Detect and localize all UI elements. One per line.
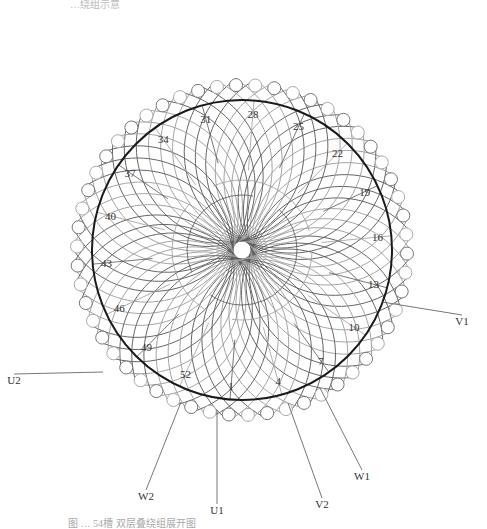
slot-40 xyxy=(76,202,89,215)
coil-arc xyxy=(195,79,387,253)
slot-17 xyxy=(397,209,410,222)
slot-10 xyxy=(371,337,384,350)
slot-32 xyxy=(174,91,187,104)
coil-arc xyxy=(238,104,413,296)
slot-44 xyxy=(74,278,87,291)
slot-27 xyxy=(268,82,281,95)
coil-arc xyxy=(97,247,289,421)
terminal-lead-w1 xyxy=(320,388,362,470)
terminal-w1: W1 xyxy=(354,470,370,482)
slot-20 xyxy=(375,156,388,169)
slot-35 xyxy=(125,121,138,134)
coil-arc xyxy=(112,82,304,246)
slot-9 xyxy=(360,352,373,365)
slot-number-46: 46 xyxy=(114,302,126,314)
slot-number-34: 34 xyxy=(158,133,170,145)
terminal-leads: U1V2W2W1V1U2 xyxy=(7,302,468,516)
slot-14 xyxy=(399,266,412,279)
slot-number-13: 13 xyxy=(368,278,380,290)
slot-number-37: 37 xyxy=(125,167,137,179)
winding-diagram: 147101316192225283134374043464952 U1V2W2… xyxy=(0,0,487,529)
slot-number-49: 49 xyxy=(141,341,153,353)
slot-number-43: 43 xyxy=(101,257,113,269)
slot-3 xyxy=(261,407,274,420)
terminal-lead-v2 xyxy=(288,403,322,498)
slot-number-22: 22 xyxy=(332,147,343,159)
slot-number-1: 1 xyxy=(228,380,234,392)
slot-19 xyxy=(385,173,398,186)
slot-number-28: 28 xyxy=(247,108,259,120)
slot-circles xyxy=(71,79,414,422)
slot-number-10: 10 xyxy=(349,321,361,333)
slot-50 xyxy=(134,374,147,387)
slot-31 xyxy=(192,84,205,97)
slot-39 xyxy=(82,184,95,197)
terminal-v2: V2 xyxy=(315,498,328,510)
slot-47 xyxy=(96,331,109,344)
slot-22 xyxy=(351,126,364,139)
slot-49 xyxy=(120,361,133,374)
terminal-u1: U1 xyxy=(210,504,223,516)
slot-34 xyxy=(140,109,153,122)
slot-5 xyxy=(298,396,311,409)
slot-number-25: 25 xyxy=(293,120,305,132)
slot-43 xyxy=(71,259,84,272)
slot-29 xyxy=(230,79,243,92)
slot-1 xyxy=(222,408,235,421)
slot-13 xyxy=(395,285,408,298)
slot-2 xyxy=(242,408,255,421)
terminal-u2: U2 xyxy=(7,374,20,386)
slot-21 xyxy=(364,140,377,153)
slot-24 xyxy=(321,102,334,115)
slot-number-40: 40 xyxy=(105,210,117,222)
terminal-v1: V1 xyxy=(455,315,468,327)
slot-number-19: 19 xyxy=(359,186,371,198)
slot-51 xyxy=(150,385,163,398)
coil-arc xyxy=(83,81,273,264)
slot-8 xyxy=(346,366,359,379)
coil-arc xyxy=(75,122,238,314)
slot-37 xyxy=(100,150,113,163)
slot-38 xyxy=(90,166,103,179)
slot-48 xyxy=(107,347,120,360)
slot-15 xyxy=(401,247,414,260)
slot-number-labels: 147101316192225283134374043464952 xyxy=(101,108,383,391)
slot-26 xyxy=(286,87,299,100)
slot-53 xyxy=(185,401,198,414)
slot-number-4: 4 xyxy=(275,375,281,387)
terminal-w2: W2 xyxy=(138,490,154,502)
slot-54 xyxy=(203,405,216,418)
slot-46 xyxy=(87,314,100,327)
slot-42 xyxy=(71,240,84,253)
slot-41 xyxy=(72,221,85,234)
slot-number-31: 31 xyxy=(200,113,211,125)
figure-caption: 图 … 54槽 双层叠绕组展开图 xyxy=(68,515,196,529)
slot-33 xyxy=(156,99,169,112)
slot-18 xyxy=(392,191,405,204)
slot-7 xyxy=(331,378,344,391)
slot-11 xyxy=(381,321,394,334)
slot-25 xyxy=(304,94,317,107)
terminal-lead-u2 xyxy=(14,372,103,374)
slot-45 xyxy=(79,297,92,310)
slot-16 xyxy=(400,228,413,241)
coil-arc xyxy=(246,186,409,378)
slot-28 xyxy=(249,79,262,92)
slot-23 xyxy=(337,113,350,126)
slot-36 xyxy=(111,135,124,148)
slot-number-7: 7 xyxy=(318,355,324,367)
slot-number-52: 52 xyxy=(180,368,191,380)
slot-30 xyxy=(210,80,223,93)
coil-arc xyxy=(180,254,372,418)
terminal-lead-w2 xyxy=(146,402,181,490)
slot-number-16: 16 xyxy=(372,231,384,243)
slot-52 xyxy=(167,394,180,407)
